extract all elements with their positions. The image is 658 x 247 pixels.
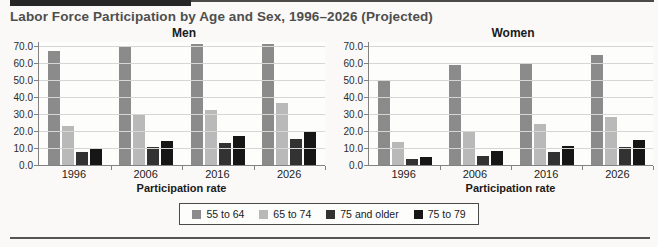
y-axis-tick xyxy=(34,63,38,64)
x-axis-category-label: 2016 xyxy=(511,168,582,180)
gridline xyxy=(39,114,325,115)
legend-label: 75 and older xyxy=(340,208,398,220)
x-axis-tick xyxy=(254,166,255,170)
figure-title: Labor Force Participation by Age and Sex… xyxy=(10,9,433,24)
women-chart-title: Women xyxy=(368,26,658,42)
bar-55-to-64 xyxy=(262,44,274,165)
men-chart-title: Men xyxy=(38,26,330,42)
y-axis-tick-label: 50.0 xyxy=(329,75,363,86)
legend-item: 75 to 79 xyxy=(414,208,466,220)
bar-75-and-older xyxy=(219,143,231,165)
y-axis-tick-label: 10.0 xyxy=(329,143,363,154)
y-axis-tick-label: 40.0 xyxy=(0,92,33,103)
y-axis-tick-label: 10.0 xyxy=(0,143,33,154)
y-axis-tick xyxy=(34,148,38,149)
y-axis-tick-label: 30.0 xyxy=(0,109,33,120)
gridline xyxy=(369,63,653,64)
y-axis-tick-label: 50.0 xyxy=(0,75,33,86)
bar-75-to-79 xyxy=(161,141,173,165)
bar-group-2016 xyxy=(511,42,582,165)
legend-label: 55 to 64 xyxy=(206,208,244,220)
bar-group-2016 xyxy=(182,42,254,165)
bar-75-and-older xyxy=(619,147,631,165)
y-axis-tick xyxy=(364,131,368,132)
gridline xyxy=(39,46,325,47)
gridline xyxy=(369,46,653,47)
gridline xyxy=(39,131,325,132)
bar-65-to-74 xyxy=(205,110,217,165)
y-axis-tick xyxy=(34,97,38,98)
y-axis-tick xyxy=(364,80,368,81)
bar-75-and-older xyxy=(548,152,560,165)
men-plot-area: 0.010.020.030.040.050.060.070.0 xyxy=(38,42,325,166)
legend: 55 to 6465 to 7475 and older75 to 79 xyxy=(179,203,478,225)
bar-55-to-64 xyxy=(378,81,390,165)
x-axis-category-label: 2006 xyxy=(110,168,182,180)
legend-label: 65 to 74 xyxy=(273,208,311,220)
x-axis-category-label: 2026 xyxy=(582,168,653,180)
y-axis-tick-label: 70.0 xyxy=(0,41,33,52)
bar-75-to-79 xyxy=(562,146,574,165)
y-axis-tick-label: 70.0 xyxy=(329,41,363,52)
x-axis-tick xyxy=(582,166,583,170)
y-axis-tick xyxy=(364,114,368,115)
bar-75-to-79 xyxy=(633,140,645,165)
women-bars xyxy=(369,42,653,165)
men-x-axis-title: Participation rate xyxy=(38,180,325,194)
bar-group-2026 xyxy=(254,42,326,165)
y-axis-tick xyxy=(34,114,38,115)
bar-group-1996 xyxy=(39,42,111,165)
bar-65-to-74 xyxy=(133,115,145,165)
women-plot-area: 0.010.020.030.040.050.060.070.0 xyxy=(368,42,653,166)
y-axis-tick-label: 20.0 xyxy=(329,126,363,137)
x-axis-tick xyxy=(182,166,183,170)
y-axis-tick-label: 40.0 xyxy=(329,92,363,103)
gridline xyxy=(369,80,653,81)
legend-swatch-icon xyxy=(414,210,423,219)
y-axis-tick-label: 30.0 xyxy=(329,109,363,120)
bar-75-and-older xyxy=(406,159,418,165)
bar-65-to-74 xyxy=(392,142,404,165)
y-axis-tick xyxy=(364,46,368,47)
x-axis-category-label: 2026 xyxy=(253,168,325,180)
women-chart-panel: Women 0.010.020.030.040.050.060.070.0 19… xyxy=(330,26,658,194)
y-axis-tick xyxy=(34,131,38,132)
x-axis-tick xyxy=(511,166,512,170)
y-axis-tick xyxy=(364,97,368,98)
gridline xyxy=(39,148,325,149)
y-axis-tick-label: 0.0 xyxy=(0,160,33,171)
y-axis-tick xyxy=(34,165,38,166)
gridline xyxy=(39,80,325,81)
gridline xyxy=(369,114,653,115)
bar-group-2006 xyxy=(111,42,183,165)
y-axis-tick-label: 0.0 xyxy=(329,160,363,171)
bar-75-to-79 xyxy=(491,151,503,165)
legend-wrap: 55 to 6465 to 7475 and older75 to 79 xyxy=(0,203,658,225)
men-bars xyxy=(39,42,325,165)
x-axis-category-label: 1996 xyxy=(38,168,110,180)
x-axis-tick xyxy=(653,166,654,170)
y-axis-tick xyxy=(364,63,368,64)
x-axis-category-label: 2016 xyxy=(182,168,254,180)
bar-75-to-79 xyxy=(233,136,245,165)
bar-group-2026 xyxy=(582,42,653,165)
gridline xyxy=(39,97,325,98)
bar-group-1996 xyxy=(369,42,440,165)
bottom-rule xyxy=(10,237,650,239)
gridline xyxy=(39,63,325,64)
gridline xyxy=(369,148,653,149)
y-axis-tick-label: 20.0 xyxy=(0,126,33,137)
legend-swatch-icon xyxy=(259,210,268,219)
men-chart-panel: Men 0.010.020.030.040.050.060.070.0 1996… xyxy=(0,26,330,194)
y-axis-tick-label: 60.0 xyxy=(329,58,363,69)
y-axis-tick xyxy=(364,165,368,166)
y-axis-tick xyxy=(34,80,38,81)
bar-65-to-74 xyxy=(605,117,617,165)
legend-item: 55 to 64 xyxy=(192,208,244,220)
x-axis-tick xyxy=(111,166,112,170)
bar-75-to-79 xyxy=(420,157,432,165)
gridline xyxy=(369,131,653,132)
bar-75-and-older xyxy=(147,147,159,165)
x-axis-category-label: 1996 xyxy=(368,168,439,180)
bar-75-to-79 xyxy=(90,148,102,165)
